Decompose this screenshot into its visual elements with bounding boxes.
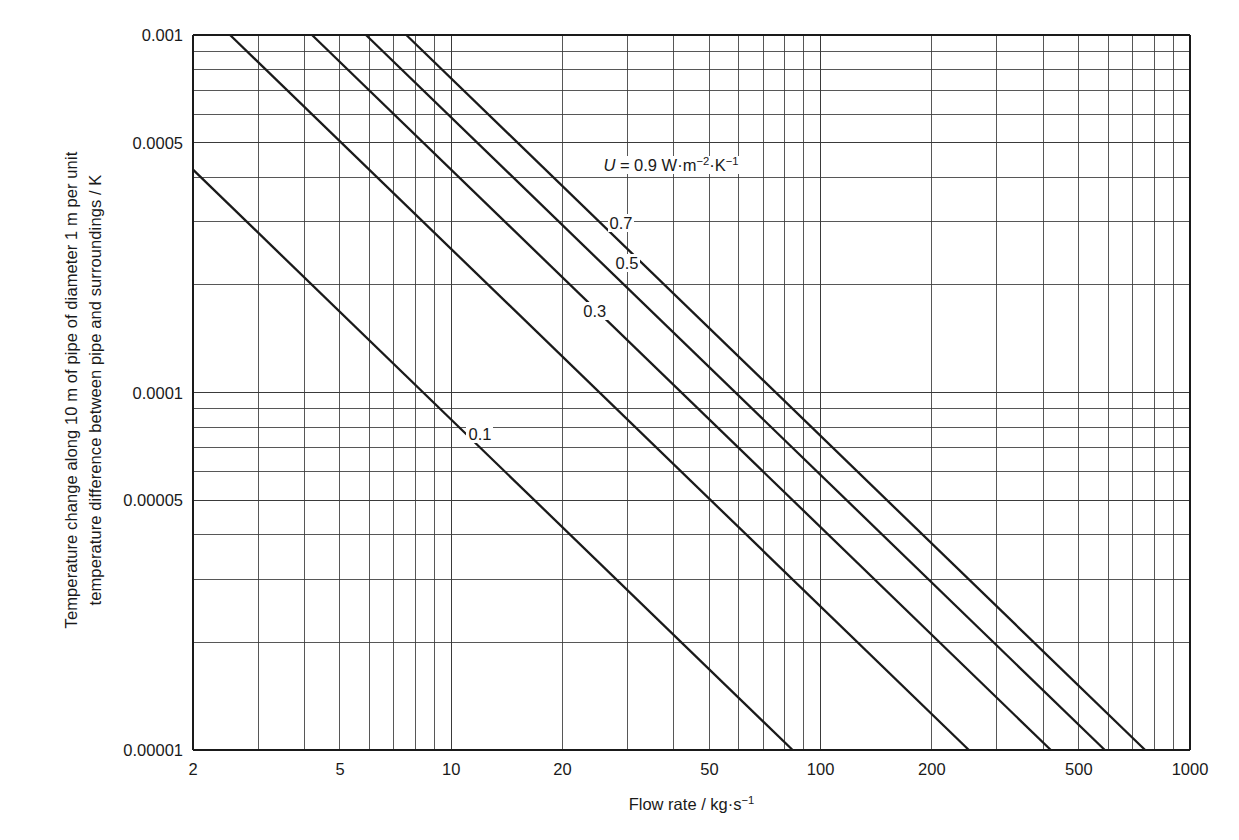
x-tick-label: 50 — [700, 760, 718, 779]
curve-label-0.7: 0.7 — [608, 214, 635, 232]
x-tick-label: 5 — [335, 760, 344, 779]
x-tick-label: 1000 — [1172, 760, 1209, 779]
curve-0.1 — [193, 170, 793, 750]
curve-label-0.5: 0.5 — [613, 254, 640, 272]
x-tick-label: 100 — [807, 760, 835, 779]
x-tick-label: 10 — [442, 760, 460, 779]
y-tick-label: 0.0005 — [133, 133, 183, 152]
curve-label-0.9: U = 0.9 W·m−2·K−1 — [601, 156, 740, 174]
y-tick-label: 0.0001 — [133, 383, 183, 402]
x-tick-label: 200 — [918, 760, 946, 779]
y-tick-label: 0.001 — [142, 26, 183, 45]
y-tick-label: 0.00005 — [123, 491, 183, 510]
curve-label-0.3: 0.3 — [581, 302, 608, 320]
x-tick-label: 500 — [1065, 760, 1093, 779]
x-tick-label: 20 — [553, 760, 571, 779]
x-tick-label: 2 — [188, 760, 197, 779]
plot-area — [0, 0, 1239, 840]
y-tick-label: 0.00001 — [123, 741, 183, 760]
chart-canvas: Temperature change along 10 m of pipe of… — [0, 0, 1239, 840]
curve-label-0.1: 0.1 — [466, 425, 493, 443]
